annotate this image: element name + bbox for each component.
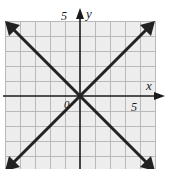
x-axis-label: x	[146, 79, 152, 92]
y-axis-label: y	[86, 7, 92, 20]
origin-label: 0	[64, 99, 70, 110]
coordinate-plane-figure: y x 5 5 0	[0, 0, 169, 169]
y-axis-tick-label-5: 5	[61, 10, 67, 22]
graph-canvas	[0, 0, 169, 169]
x-axis-tick-label-5: 5	[131, 101, 137, 113]
